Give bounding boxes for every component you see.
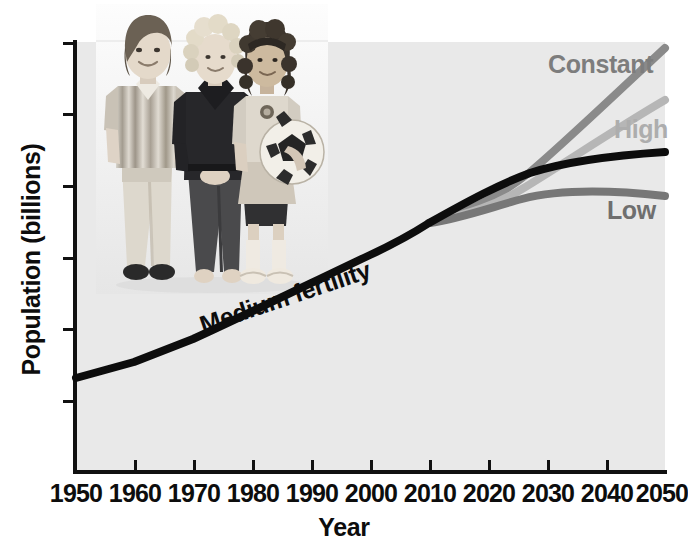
x-axis-title: Year [0, 513, 688, 542]
x-tick-label-1960: 1960 [109, 479, 161, 508]
x-tick-label-2030: 2030 [522, 479, 574, 508]
x-tick-label-1950: 1950 [50, 479, 102, 508]
y-tick-4 [63, 328, 77, 331]
series-label-high: High [614, 115, 668, 144]
x-tick-label-2050: 2050 [636, 479, 688, 508]
x-tick-2010 [429, 460, 432, 474]
x-tick-2000 [370, 460, 373, 474]
x-tick-label-2040: 2040 [581, 479, 633, 508]
x-tick-2020 [488, 460, 491, 474]
x-tick-1960 [134, 460, 137, 474]
x-tick-2040 [606, 460, 609, 474]
x-tick-1990 [311, 460, 314, 474]
y-axis-title: Population (billions) [17, 110, 46, 410]
x-tick-1980 [252, 460, 255, 474]
three-children-group-photo [96, 4, 328, 294]
y-tick-12 [63, 42, 77, 45]
y-tick-2 [63, 400, 77, 403]
population-projection-chart: 12 10 8 6 4 2 0 1950 1960 1970 1980 1990… [0, 0, 688, 552]
x-tick-label-1980: 1980 [227, 479, 279, 508]
y-tick-6 [63, 257, 77, 260]
x-tick-label-1970: 1970 [168, 479, 220, 508]
x-tick-1970 [193, 460, 196, 474]
series-label-low: Low [607, 196, 656, 225]
series-label-constant: Constant [548, 50, 653, 79]
x-tick-2030 [547, 460, 550, 474]
y-tick-8 [63, 185, 77, 188]
x-tick-label-1990: 1990 [286, 479, 338, 508]
x-tick-label-2000: 2000 [345, 479, 397, 508]
x-tick-label-2010: 2010 [404, 479, 456, 508]
x-tick-label-2020: 2020 [463, 479, 515, 508]
y-tick-10 [63, 113, 77, 116]
